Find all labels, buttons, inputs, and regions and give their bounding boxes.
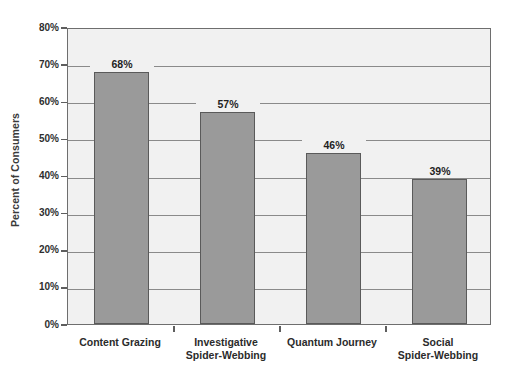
x-axis-category-label: Social Spider-Webbing bbox=[378, 336, 498, 362]
y-axis-title-text: Percent of Consumers bbox=[9, 113, 21, 227]
bar-value-label: 39% bbox=[408, 165, 472, 177]
x-axis-tick-mark bbox=[279, 326, 281, 332]
bar bbox=[200, 112, 255, 324]
bar bbox=[94, 72, 149, 324]
y-axis-tick-label: 0% bbox=[28, 319, 59, 330]
bar bbox=[412, 179, 467, 324]
bar-chart-figure: Percent of Consumers 0%10%20%30%40%50%60… bbox=[0, 0, 507, 376]
x-axis-category-label: Investigative Spider-Webbing bbox=[166, 336, 286, 362]
y-axis-tick-label: 40% bbox=[28, 170, 59, 181]
y-axis-tick-label: 50% bbox=[28, 133, 59, 144]
bar-value-label: 57% bbox=[196, 98, 260, 110]
y-axis-tick-label: 60% bbox=[28, 96, 59, 107]
bar-value-label: 68% bbox=[90, 58, 154, 70]
y-axis-tick-label: 70% bbox=[28, 59, 59, 70]
bar bbox=[306, 153, 361, 324]
y-axis-tick-label: 10% bbox=[28, 281, 59, 292]
y-axis-tick-label: 80% bbox=[28, 22, 59, 33]
x-axis-category-label: Content Grazing bbox=[60, 336, 180, 349]
x-axis-tick-mark bbox=[385, 326, 387, 332]
y-axis-tick-label: 20% bbox=[28, 244, 59, 255]
bar-value-label: 46% bbox=[302, 139, 366, 151]
y-axis-title: Percent of Consumers bbox=[0, 0, 30, 340]
x-axis-category-label: Quantum Journey bbox=[272, 336, 392, 349]
y-axis-tick-label: 30% bbox=[28, 207, 59, 218]
x-axis-tick-mark bbox=[173, 326, 175, 332]
